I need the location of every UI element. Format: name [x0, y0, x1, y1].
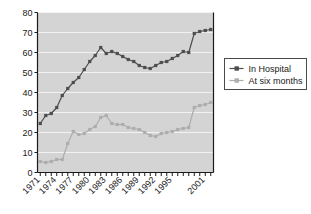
data-point-marker [204, 29, 207, 32]
data-point-marker [50, 112, 53, 115]
data-point-marker [143, 66, 146, 69]
data-point-marker [50, 160, 53, 163]
data-point-marker [165, 60, 168, 63]
data-point-marker [149, 134, 152, 137]
data-point-marker [171, 130, 174, 133]
data-point-marker [132, 60, 135, 63]
data-point-marker [88, 60, 91, 63]
y-tick-label: 80 [22, 8, 32, 18]
data-point-marker [72, 81, 75, 84]
data-point-marker [121, 123, 124, 126]
data-point-marker [193, 106, 196, 109]
data-point-marker [198, 30, 201, 33]
data-point-marker [121, 55, 124, 58]
data-point-marker [88, 128, 91, 131]
y-tick-label: 30 [22, 108, 32, 118]
data-point-marker [209, 28, 212, 31]
data-point-marker [99, 46, 102, 49]
y-tick-label: 10 [22, 148, 32, 158]
data-point-marker [61, 94, 64, 97]
data-point-marker [99, 116, 102, 119]
data-point-marker [165, 131, 168, 134]
data-point-marker [44, 114, 47, 117]
data-point-marker [83, 68, 86, 71]
chart-legend: In HospitalAt six months [225, 59, 307, 90]
data-point-marker [44, 161, 47, 164]
data-point-marker [94, 54, 97, 57]
data-point-marker [154, 64, 157, 67]
data-point-marker [143, 131, 146, 134]
y-tick-label: 50 [22, 68, 32, 78]
line-chart: 01020304050607080 1971197419771980198319… [0, 0, 311, 214]
legend-item-label: In Hospital [249, 64, 292, 74]
y-tick-label: 40 [22, 88, 32, 98]
data-point-marker [160, 132, 163, 135]
data-point-marker [61, 158, 64, 161]
legend-marker-sample [235, 78, 239, 82]
data-point-marker [127, 126, 130, 129]
data-point-marker [55, 158, 58, 161]
chart-figure: 01020304050607080 1971197419771980198319… [0, 0, 311, 214]
data-point-marker [72, 130, 75, 133]
data-point-marker [116, 52, 119, 55]
data-point-marker [77, 133, 80, 136]
data-point-marker [182, 127, 185, 130]
data-point-marker [138, 128, 141, 131]
data-point-marker [171, 57, 174, 60]
data-point-marker [66, 87, 69, 90]
data-point-marker [176, 54, 179, 57]
legend-marker-sample [235, 66, 239, 70]
data-point-marker [209, 101, 212, 104]
data-point-marker [182, 50, 185, 53]
data-point-marker [193, 32, 196, 35]
legend-item-label: At six months [249, 76, 304, 86]
data-point-marker [105, 114, 108, 117]
data-point-marker [94, 125, 97, 128]
y-tick-label: 0 [27, 168, 32, 178]
data-point-marker [77, 76, 80, 79]
data-point-marker [149, 67, 152, 70]
data-point-marker [39, 160, 42, 163]
data-point-marker [116, 123, 119, 126]
data-point-marker [83, 132, 86, 135]
data-point-marker [160, 61, 163, 64]
data-point-marker [176, 128, 179, 131]
data-point-marker [204, 103, 207, 106]
data-point-marker [105, 52, 108, 55]
data-point-marker [39, 122, 42, 125]
data-point-marker [66, 142, 69, 145]
y-tick-label: 60 [22, 48, 32, 58]
data-point-marker [138, 64, 141, 67]
data-point-marker [127, 58, 130, 61]
data-point-marker [187, 126, 190, 129]
y-tick-label: 70 [22, 28, 32, 38]
data-point-marker [55, 106, 58, 109]
data-point-marker [110, 50, 113, 53]
data-point-marker [187, 51, 190, 54]
y-tick-label: 20 [22, 128, 32, 138]
data-point-marker [132, 127, 135, 130]
data-point-marker [110, 122, 113, 125]
data-point-marker [154, 135, 157, 138]
data-point-marker [198, 104, 201, 107]
